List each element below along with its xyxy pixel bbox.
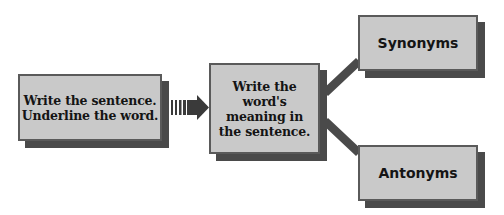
synonyms-box: Synonyms — [358, 15, 478, 71]
step-line: meaning in — [219, 109, 310, 124]
step-text: Write the word's meaning in the sentence… — [219, 79, 310, 139]
step-line: the sentence. — [219, 124, 310, 139]
step-box-write-meaning: Write the word's meaning in the sentence… — [209, 63, 320, 154]
antonyms-box: Antonyms — [358, 145, 478, 201]
step-line: word's — [219, 94, 310, 109]
synonyms-label: Synonyms — [378, 35, 459, 51]
diagram-canvas: Write the sentence. Underline the word. … — [0, 0, 504, 215]
step-line: Write the — [219, 79, 310, 94]
antonyms-label: Antonyms — [378, 165, 457, 181]
